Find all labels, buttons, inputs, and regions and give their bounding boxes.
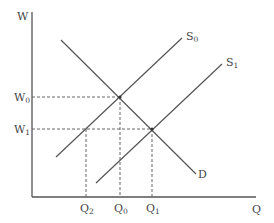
s0-label: S0 [186,30,199,44]
w1-label: W1 [14,123,30,137]
q0-label: Q0 [114,202,128,216]
equilibrium-point-e0 [118,95,121,98]
equilibrium-point-e1 [150,127,153,130]
supply-curve-s1 [96,64,222,183]
y-axis-label: W [17,10,29,23]
w0-label: W0 [14,91,30,105]
x-axis-label: Q [252,203,261,216]
supply-demand-diagram: W Q W0 W1 Q2 Q0 Q1 S0 S1 D [0,0,274,223]
q1-label: Q1 [146,202,160,216]
s1-label: S1 [226,56,238,70]
d-label: D [198,168,207,181]
q2-label: Q2 [80,202,94,216]
